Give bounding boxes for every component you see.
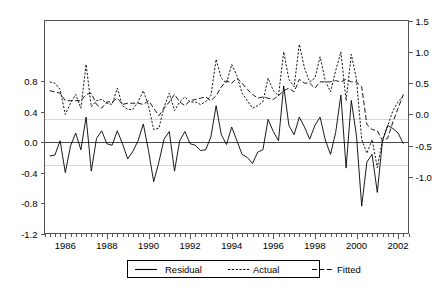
x-tick-label: 1986 [55,240,76,251]
y-left-tick-label: -1.2 [21,229,37,240]
x-tick-label: 2002 [388,240,409,251]
y-left-tick-label: 0.8 [24,76,37,87]
x-axis-labels: 198619881990199219941996199820002002 [55,240,409,251]
x-tick-label: 1988 [96,240,117,251]
x-tick-label: 1990 [138,240,159,251]
y-left-tick-label: -0.8 [21,198,37,209]
y-left-tick-label: 0.4 [24,107,37,118]
legend-label-fitted: Fitted [337,264,361,275]
x-tick-label: 1992 [180,240,201,251]
y-left-tick-label: 0.0 [24,137,37,148]
y-right-tick-label: 0.0 [416,109,429,120]
x-tick-label: 1996 [263,240,284,251]
chart-background [0,0,447,296]
y-right-tick-label: 1.0 [416,47,429,58]
x-tick-label: 2000 [346,240,367,251]
y-right-tick-label: -1.0 [416,172,432,183]
x-tick-label: 1994 [221,240,242,251]
x-tick-label: 1998 [304,240,325,251]
y-left-tick-label: -0.4 [21,168,37,179]
residual-actual-fitted-chart: 198619881990199219941996199820002002 0.8… [0,0,447,296]
legend-label-residual: Residual [165,264,202,275]
chart-container: 198619881990199219941996199820002002 0.8… [0,0,447,296]
y-right-tick-label: 1.5 [416,16,429,27]
y-right-tick-label: -0.5 [416,141,432,152]
legend-label-actual: Actual [253,264,279,275]
y-right-tick-label: 0.5 [416,78,429,89]
